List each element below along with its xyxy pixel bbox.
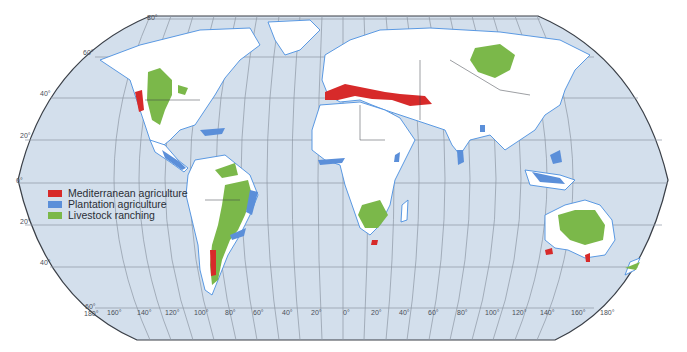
lat-label-80n: 80° [147,14,158,22]
lon-label: 100° [485,309,499,317]
lon-label: 120° [512,309,526,317]
lat-label-20n: 20° [20,132,31,140]
lat-label-60n: 60° [83,49,94,57]
lat-label-0: 0° [16,177,23,185]
legend-label: Livestock ranching [68,210,155,221]
plantation-swatch [48,201,62,208]
lon-label: 100° [194,309,208,317]
lat-label-20s: 20° [20,218,31,226]
lon-label: 20° [311,309,322,317]
lon-label: 40° [399,309,410,317]
lat-label-40n: 40° [40,90,51,98]
map-legend: Mediterranean agriculture Plantation agr… [48,188,188,221]
livestock-swatch [48,212,62,219]
lon-label: 0° [343,309,350,317]
lon-label: 20° [371,309,382,317]
lon-label: 160° [571,309,585,317]
world-map [0,0,687,352]
lon-label: 40° [282,309,293,317]
lon-label: 160° [107,309,121,317]
lon-label: 60° [253,309,264,317]
lon-label: 180° [600,309,614,317]
lon-label: 180° [84,310,98,318]
lon-label: 120° [165,309,179,317]
legend-item-livestock: Livestock ranching [48,210,188,221]
mediterranean-swatch [48,190,62,197]
lon-label: 80° [457,309,468,317]
lat-label-40s: 40° [40,259,51,267]
lon-label: 140° [137,309,151,317]
lon-label: 60° [428,309,439,317]
lon-label: 140° [540,309,554,317]
lon-label: 80° [225,309,236,317]
